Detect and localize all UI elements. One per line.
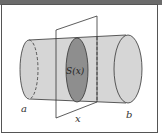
label-b: b: [126, 109, 132, 120]
label-a: a: [21, 103, 27, 114]
cross-section-label: S(x): [66, 66, 85, 76]
right-end-face: [114, 35, 142, 103]
volume-diagram: S(x) a b x: [0, 0, 162, 135]
label-x: x: [75, 113, 81, 124]
